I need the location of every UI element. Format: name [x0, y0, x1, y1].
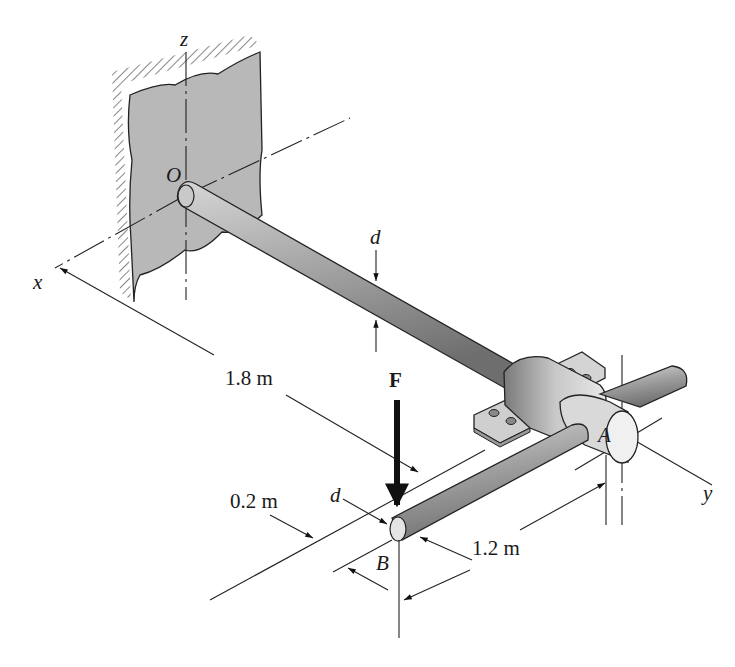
force-label: F: [389, 368, 402, 392]
arm-length-label: 1.2 m: [472, 536, 520, 560]
z-axis-label: z: [179, 27, 188, 51]
bearing-pin: [600, 366, 687, 407]
crank-arm: [390, 424, 588, 541]
point-a-label: A: [596, 423, 611, 447]
fixed-wall: [112, 35, 262, 302]
arm-end-b: [390, 517, 406, 541]
x-axis-label: x: [32, 270, 43, 294]
shaft-diagram: z O x d 1.8 m F 0.2 m d B 1.2 m A y: [0, 0, 735, 667]
offset-label: 0.2 m: [230, 489, 278, 513]
point-b-label: B: [376, 551, 389, 575]
shaft-diameter-label: d: [370, 225, 381, 249]
origin-label: O: [166, 163, 181, 187]
y-axis-label: y: [701, 481, 713, 505]
shaft-length-label: 1.8 m: [225, 366, 273, 390]
arm-diameter-label: d: [330, 483, 341, 507]
dimension-lines: [60, 250, 606, 638]
main-shaft: [177, 182, 528, 392]
